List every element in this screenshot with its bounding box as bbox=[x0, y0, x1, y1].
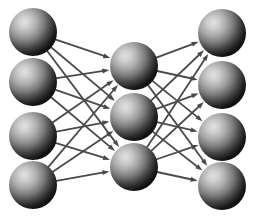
node-o1[interactable]: Output 1 bbox=[198, 9, 246, 57]
node-o2[interactable]: Output 2 bbox=[198, 61, 246, 109]
sphere-icon bbox=[110, 93, 158, 141]
sphere-icon bbox=[198, 162, 246, 210]
node-o3[interactable]: Output 3 bbox=[198, 113, 246, 161]
node-h3[interactable]: Hidden 3 bbox=[110, 143, 158, 191]
node-i1[interactable]: Input 1 bbox=[9, 8, 57, 56]
sphere-icon bbox=[198, 113, 246, 161]
node-i2[interactable]: Input 2 bbox=[9, 58, 57, 106]
node-i4[interactable]: Input 4 bbox=[9, 161, 57, 209]
node-h1[interactable]: Hidden 1 bbox=[110, 42, 158, 90]
neural-network-canvas: Input 1Input 2Input 3Input 4Hidden 1Hidd… bbox=[0, 0, 257, 216]
node-i3[interactable]: Input 3 bbox=[9, 112, 57, 160]
sphere-icon bbox=[110, 42, 158, 90]
sphere-icon bbox=[198, 61, 246, 109]
sphere-icon bbox=[9, 112, 57, 160]
sphere-icon bbox=[198, 9, 246, 57]
neural-network-diagram: Input 1Input 2Input 3Input 4Hidden 1Hidd… bbox=[0, 0, 257, 216]
node-h2[interactable]: Hidden 2 bbox=[110, 93, 158, 141]
sphere-icon bbox=[9, 161, 57, 209]
sphere-icon bbox=[110, 143, 158, 191]
node-o4[interactable]: Output 4 bbox=[198, 162, 246, 210]
sphere-icon bbox=[9, 8, 57, 56]
sphere-icon bbox=[9, 58, 57, 106]
